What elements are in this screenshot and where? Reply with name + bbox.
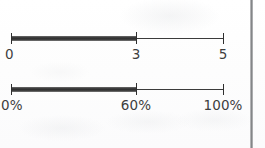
percent-axis-labels: 0% 60% 100% — [0, 96, 245, 115]
numeric-tick-mid — [136, 32, 137, 44]
percent-tick-mid — [136, 83, 137, 95]
numeric-scale-gauge: 0 3 5 — [0, 30, 240, 64]
figure-canvas: 0 3 5 0% 60% 100% — [0, 0, 265, 148]
numeric-label-start: 0 — [5, 45, 29, 64]
percent-tick-end — [223, 84, 224, 95]
percent-label-start: 0% — [1, 96, 41, 115]
percent-scale-gauge: 0% 60% 100% — [0, 81, 240, 115]
percent-label-mid: 60% — [114, 96, 158, 115]
numeric-label-end: 5 — [211, 45, 235, 64]
paper-texture — [0, 0, 265, 148]
numeric-tick-end — [223, 33, 224, 44]
numeric-axis-labels: 0 3 5 — [0, 45, 245, 64]
percent-axis — [0, 81, 240, 96]
numeric-label-mid: 3 — [124, 45, 148, 64]
percent-tick-start — [11, 84, 12, 95]
numeric-tick-start — [11, 33, 12, 44]
numeric-axis — [0, 30, 240, 45]
column-divider-rule — [250, 0, 253, 148]
percent-value-bar — [11, 87, 136, 92]
percent-label-end: 100% — [196, 96, 250, 115]
numeric-value-bar — [11, 36, 136, 41]
